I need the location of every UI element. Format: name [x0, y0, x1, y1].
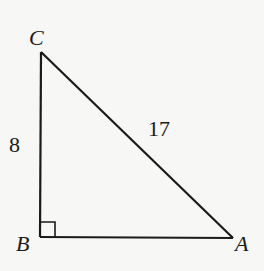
right-angle-marker: [40, 222, 55, 237]
vertex-label-b: B: [16, 233, 29, 255]
side-cb: [40, 52, 41, 237]
side-label-cb: 8: [9, 134, 20, 156]
vertex-label-c: C: [29, 27, 44, 49]
vertex-label-a: A: [235, 233, 248, 255]
side-label-ca: 17: [148, 118, 170, 140]
side-ca: [41, 52, 233, 238]
side-ba: [40, 237, 233, 238]
